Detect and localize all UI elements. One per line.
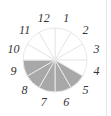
sector-label-11: 11 — [19, 23, 30, 37]
sector-label-3: 3 — [93, 42, 100, 56]
sector-label-7: 7 — [41, 95, 48, 109]
sector-label-8: 8 — [22, 83, 28, 97]
sector-label-6: 6 — [63, 95, 69, 109]
sector-label-2: 2 — [82, 23, 88, 37]
sector-label-4: 4 — [94, 64, 100, 78]
sector-label-1: 1 — [63, 11, 69, 25]
sector-label-5: 5 — [82, 83, 88, 97]
sector-label-12: 12 — [38, 11, 50, 25]
sector-label-10: 10 — [7, 42, 19, 56]
sector-label-9: 9 — [10, 64, 16, 78]
fraction-circle-diagram: 123456789101112 — [0, 0, 111, 116]
